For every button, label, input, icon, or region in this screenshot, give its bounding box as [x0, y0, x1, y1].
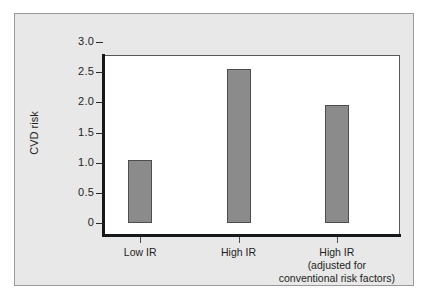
x-axis-tick-mark: [337, 237, 338, 243]
x-axis-tick-label-line: conventional risk factors): [266, 272, 408, 285]
y-axis-tick-label: 0: [54, 216, 94, 228]
x-axis-tick-label-line: (adjusted for: [266, 259, 408, 272]
chart-figure: CVD risk 3.02.52.01.51.00.50 Low IRHigh …: [0, 0, 428, 299]
y-axis-tick-mark: [96, 223, 103, 224]
y-axis-tick-label: 2.0: [54, 95, 94, 107]
bar: [128, 160, 152, 223]
x-axis-tick-label: High IR(adjusted forconventional risk fa…: [266, 246, 408, 285]
y-axis-tick-label: 2.5: [54, 65, 94, 77]
x-axis-tick-mark: [239, 237, 240, 243]
x-axis-line: [102, 234, 401, 237]
y-axis-line: [102, 54, 105, 237]
y-axis-tick-mark: [96, 193, 103, 194]
y-axis-tick-label: 3.0: [54, 35, 94, 47]
x-axis-tick-mark: [140, 237, 141, 243]
y-axis-tick-mark: [96, 163, 103, 164]
y-axis-tick-mark: [96, 42, 103, 43]
x-axis-tick-label-line: High IR: [266, 246, 408, 259]
bar: [325, 105, 349, 223]
y-axis-tick-label: 0.5: [54, 186, 94, 198]
y-axis-tick-mark: [96, 102, 103, 103]
y-axis-tick-label: 1.5: [54, 126, 94, 138]
chart-panel: CVD risk 3.02.52.01.51.00.50 Low IRHigh …: [14, 13, 414, 286]
y-axis-title: CVD risk: [28, 98, 40, 168]
bar: [227, 69, 251, 223]
y-axis-tick-label: 1.0: [54, 156, 94, 168]
y-axis-tick-mark: [96, 72, 103, 73]
y-axis-tick-mark: [96, 133, 103, 134]
